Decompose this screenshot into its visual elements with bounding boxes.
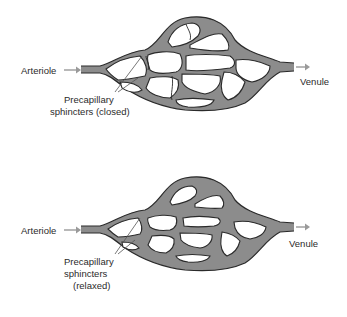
arteriole-label: Arteriole — [21, 65, 56, 76]
capillary-network-closed — [0, 0, 347, 158]
sphincter-label-line2: sphincters — [64, 268, 107, 279]
arteriole-arrow-icon — [64, 67, 81, 74]
venule-label: Venule — [289, 238, 318, 249]
arteriole-label: Arteriole — [21, 225, 56, 236]
sphincter-label-line2: sphincters (closed) — [50, 106, 130, 117]
venule-arrow-icon — [296, 224, 310, 231]
sphincter-label-line1: Precapillary — [64, 94, 114, 105]
capillary-bed-relaxed-panel: Arteriole Venule Precapillary sphincters… — [0, 160, 347, 317]
capillary-bed-closed-panel: Arteriole Venule Precapillary sphincters… — [0, 0, 347, 158]
sphincter-label-line3: (relaxed) — [73, 280, 111, 291]
venule-arrow-icon — [296, 64, 310, 71]
venule-label: Venule — [300, 76, 329, 87]
sphincter-label-line1: Precapillary — [64, 256, 114, 267]
arteriole-arrow-icon — [64, 227, 81, 234]
